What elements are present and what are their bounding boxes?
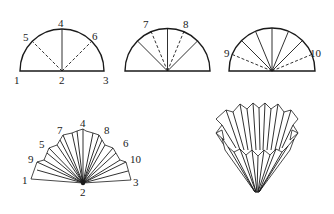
step-5-fluted-cone: [216, 103, 298, 192]
fold-line-2-5: [242, 41, 272, 71]
point-label-5: 5: [23, 31, 29, 43]
fold-line-2-5: [32, 41, 62, 71]
fold-line-2-6: [62, 41, 92, 71]
step-4-pleated-fan: 1 9 5 7 4 8 6 10 3 2: [22, 117, 142, 198]
point-label-3: 3: [103, 74, 109, 86]
step-3-semicircle: 9 10: [224, 28, 322, 71]
point-label-3: 3: [133, 176, 139, 188]
point-label-8: 8: [183, 18, 189, 30]
point-label-1: 1: [14, 74, 20, 86]
point-label-10: 10: [310, 47, 322, 59]
point-label-9: 9: [224, 47, 230, 59]
filter-paper-folding-diagram: 1 2 3 4 5 6 7 8 9 10: [0, 0, 334, 214]
point-label-2: 2: [80, 186, 86, 198]
point-label-8: 8: [104, 124, 110, 136]
point-label-1: 1: [22, 174, 28, 186]
point-label-4: 4: [80, 117, 86, 129]
step-1-semicircle: 1 2 3 4 5 6: [14, 17, 109, 86]
point-label-4: 4: [58, 17, 64, 29]
step-2-semicircle: 7 8: [125, 18, 210, 71]
point-label-6: 6: [92, 30, 98, 42]
point-label-10: 10: [130, 153, 142, 165]
point-label-7: 7: [143, 18, 149, 30]
apex-point: [81, 181, 85, 185]
point-label-5: 5: [39, 138, 45, 150]
point-label-2: 2: [59, 74, 65, 86]
point-label-9: 9: [28, 153, 34, 165]
fold-line-2-7: [151, 32, 167, 71]
point-label-7: 7: [57, 124, 63, 136]
fold-line-2-6: [168, 41, 198, 71]
fold-line-2-6: [272, 41, 302, 71]
fold-line-2-5: [137, 41, 167, 71]
point-label-6: 6: [123, 137, 129, 149]
fold-line-2-8: [168, 32, 184, 71]
